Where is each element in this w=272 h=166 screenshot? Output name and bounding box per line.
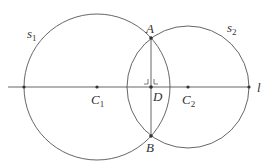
- label-B: B: [146, 140, 154, 155]
- point-B: [149, 134, 153, 138]
- point-C1: [95, 85, 98, 88]
- point-right-intersection: [247, 85, 250, 88]
- point-C2: [186, 85, 189, 88]
- point-left-intersection: [22, 85, 25, 88]
- label-s1: s1: [27, 26, 37, 43]
- label-C2: C2: [182, 92, 195, 109]
- label-s2: s2: [227, 20, 237, 37]
- label-l: l: [257, 80, 261, 95]
- right-angle-mark-right: [154, 79, 158, 84]
- right-angle-mark-left: [144, 79, 148, 84]
- geometry-diagram: s1 s2 A B C1 C2 D l: [0, 0, 272, 166]
- point-A: [149, 36, 153, 40]
- label-D: D: [152, 89, 163, 104]
- label-C1: C1: [91, 92, 104, 109]
- label-A: A: [145, 21, 154, 36]
